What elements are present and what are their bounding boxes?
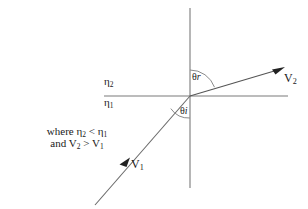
refracted-ray [190, 69, 281, 96]
v1-symbol: V [131, 157, 140, 171]
theta-r-label: θr [192, 72, 201, 83]
eta-lower-subscript: 1 [110, 101, 114, 110]
note-v1-subscript: 1 [100, 142, 104, 151]
incident-ray [95, 96, 190, 205]
incident-ray-arrowhead [120, 158, 131, 168]
condition-note: where η2 < η1 and V2 > V1 [18, 126, 136, 149]
eta-lower-symbol: η [104, 96, 110, 108]
eta-upper-symbol: η [104, 75, 110, 87]
note-where-text: where [47, 125, 77, 137]
v1-label: V1 [131, 158, 144, 171]
note-eta2-subscript: 2 [82, 130, 86, 139]
note-eta1-subscript: 1 [103, 130, 107, 139]
note-and-text: and [50, 137, 68, 149]
v2-symbol: V [284, 71, 293, 85]
eta-upper-label: η2 [104, 76, 114, 88]
note-v2-subscript: 2 [77, 142, 81, 151]
note-eta-relation: < [86, 125, 98, 137]
theta-r-subscript: r [197, 71, 201, 82]
eta-lower-label: η1 [104, 97, 114, 109]
theta-i-label: θi [180, 106, 188, 117]
theta-i-subscript: i [185, 105, 188, 116]
v2-subscript: 2 [293, 77, 297, 86]
condition-note-line-1: where η2 < η1 [18, 126, 136, 138]
note-v1-symbol: V [92, 137, 100, 149]
note-v2-symbol: V [69, 137, 77, 149]
refraction-diagram: η2 η1 θr θi V2 V1 where η2 < η1 and V2 >… [0, 0, 308, 209]
v2-label: V2 [284, 72, 297, 85]
condition-note-line-2: and V2 > V1 [18, 138, 136, 150]
v1-subscript: 1 [140, 163, 144, 172]
diagram-canvas [0, 0, 308, 209]
eta-upper-subscript: 2 [110, 80, 114, 89]
